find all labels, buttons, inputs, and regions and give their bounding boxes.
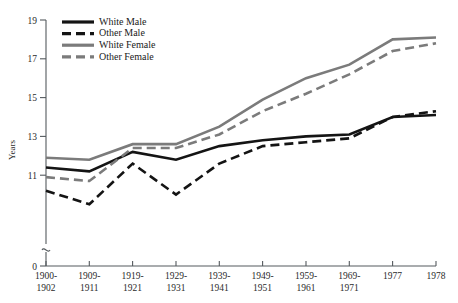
y-tick-label-19: 19	[28, 16, 38, 26]
x-tick-label-3-line2: 1931	[167, 283, 186, 293]
y-tick-label-17: 17	[28, 54, 38, 64]
y-tick-label-11: 11	[28, 171, 37, 181]
x-tick-label-2-line2: 1921	[123, 283, 142, 293]
x-tick-label-9-line1: 1978	[427, 271, 446, 281]
x-tick-label-3-line1: 1929-	[165, 271, 187, 281]
x-tick-label-7-line1: 1969-	[338, 271, 360, 281]
y-tick-label-13: 13	[28, 132, 38, 142]
chart-figure: 19 17 15 13 11 0 Years 1900- 1902 1909- …	[0, 0, 458, 303]
x-tick-label-2-line1: 1919-	[122, 271, 144, 281]
y-tick-label-0: 0	[32, 262, 37, 272]
x-tick-label-0-line1: 1900-	[35, 271, 57, 281]
x-tick-label-1-line2: 1911	[80, 283, 99, 293]
x-tick-label-7-line2: 1971	[340, 283, 359, 293]
x-tick-label-0-line2: 1902	[37, 283, 56, 293]
legend-label-white-male: White Male	[99, 16, 147, 27]
y-axis-title: Years	[7, 139, 17, 160]
line-chart: 19 17 15 13 11 0 Years 1900- 1902 1909- …	[0, 0, 458, 303]
x-tick-label-4-line2: 1941	[210, 283, 229, 293]
x-tick-label-8-line1: 1977	[383, 271, 402, 281]
x-tick-label-5-line1: 1949-	[252, 271, 274, 281]
x-tick-label-4-line1: 1939-	[208, 271, 230, 281]
x-tick-label-1-line1: 1909-	[78, 271, 100, 281]
x-tick-label-5-line2: 1951	[253, 283, 272, 293]
x-tick-label-6-line1: 1959-	[295, 271, 317, 281]
legend-label-other-female: Other Female	[99, 51, 154, 62]
y-tick-label-15: 15	[28, 93, 38, 103]
legend-label-white-female: White Female	[99, 39, 156, 50]
x-tick-label-6-line2: 1961	[297, 283, 316, 293]
legend-label-other-male: Other Male	[99, 27, 145, 38]
